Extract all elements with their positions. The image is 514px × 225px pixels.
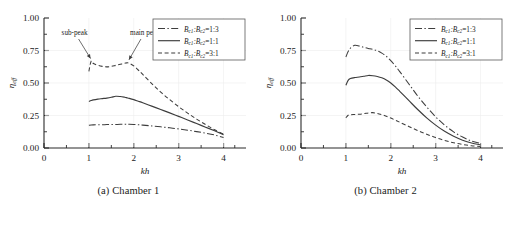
annotation-label: sub-peak bbox=[62, 29, 88, 37]
y-tick-label: 0.75 bbox=[280, 46, 296, 56]
y-tick-label: 0.75 bbox=[23, 46, 39, 56]
panel-caption-b: (b) Chamber 2 bbox=[257, 185, 514, 196]
svg-text:ηeff: ηeff bbox=[263, 76, 274, 88]
x-tick-label: 3 bbox=[176, 153, 181, 163]
data-series-line bbox=[346, 75, 481, 144]
y-tick-label: 1.00 bbox=[280, 13, 296, 23]
chart-svg-chamber-2: 0.000.250.500.751.0001234khηeffBc1:Bc2=1… bbox=[257, 0, 514, 186]
x-tick-label: 0 bbox=[42, 153, 47, 163]
y-tick-label: 1.00 bbox=[23, 13, 39, 23]
y-axis-title: ηeff bbox=[263, 76, 274, 88]
x-axis-title: kh bbox=[141, 166, 150, 176]
x-axis-title: kh bbox=[398, 166, 407, 176]
panel-caption-a: (a) Chamber 1 bbox=[0, 185, 257, 196]
y-tick-label: 0.25 bbox=[23, 111, 39, 121]
x-tick-label: 4 bbox=[478, 153, 483, 163]
x-tick-label: 0 bbox=[299, 153, 304, 163]
chart-svg-chamber-1: 0.000.250.500.751.0001234khηeffsub-peakm… bbox=[0, 0, 257, 186]
x-tick-label: 2 bbox=[131, 153, 136, 163]
x-tick-label: 4 bbox=[221, 153, 226, 163]
y-tick-label: 0.50 bbox=[23, 78, 39, 88]
y-tick-label: 0.00 bbox=[280, 143, 296, 153]
x-tick-label: 1 bbox=[87, 153, 92, 163]
plot-area-chamber-2: 0.000.250.500.751.0001234khηeffBc1:Bc2=1… bbox=[257, 0, 514, 186]
y-axis-title: ηeff bbox=[6, 76, 17, 88]
y-tick-label: 0.25 bbox=[280, 111, 296, 121]
y-tick-label: 0.50 bbox=[280, 78, 296, 88]
legend: Bc1:Bc2=1:3Bc1:Bc2=1:1Bc1:Bc2=3:1 bbox=[410, 19, 502, 60]
x-tick-label: 3 bbox=[433, 153, 438, 163]
x-tick-label: 2 bbox=[388, 153, 393, 163]
x-tick-label: 1 bbox=[344, 153, 349, 163]
legend: Bc1:Bc2=1:3Bc1:Bc2=1:1Bc1:Bc2=3:1 bbox=[153, 19, 245, 60]
svg-text:ηeff: ηeff bbox=[6, 76, 17, 88]
plot-area-chamber-1: 0.000.250.500.751.0001234khηeffsub-peakm… bbox=[0, 0, 257, 186]
figure-container: 0.000.250.500.751.0001234khηeffsub-peakm… bbox=[0, 0, 514, 225]
y-tick-label: 0.00 bbox=[23, 143, 39, 153]
panel-chamber-2: 0.000.250.500.751.0001234khηeffBc1:Bc2=1… bbox=[257, 0, 514, 225]
data-series-line bbox=[346, 113, 481, 147]
panel-chamber-1: 0.000.250.500.751.0001234khηeffsub-peakm… bbox=[0, 0, 257, 225]
